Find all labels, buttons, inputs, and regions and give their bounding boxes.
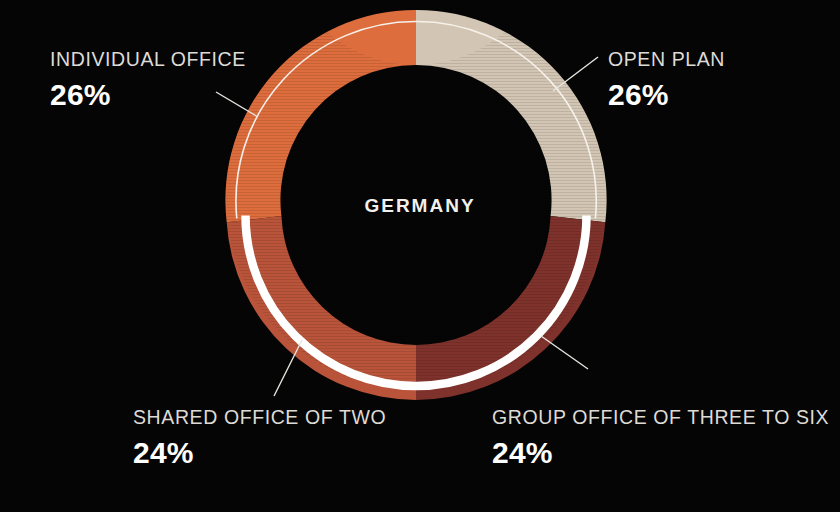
callout-shared-office-of-two: SHARED OFFICE OF TWO 24%: [133, 408, 386, 468]
callout-open-plan: OPEN PLAN 26%: [608, 50, 725, 110]
leader-line-group-three-six: [541, 336, 588, 369]
chart-center-title: GERMANY: [0, 195, 840, 217]
callout-label-individual-office: INDIVIDUAL OFFICE: [50, 50, 246, 70]
callout-value-individual-office: 26%: [50, 79, 246, 111]
callout-individual-office: INDIVIDUAL OFFICE 26%: [50, 50, 246, 110]
callout-label-shared-office-of-two: SHARED OFFICE OF TWO: [133, 408, 386, 428]
leader-line-open-plan: [553, 57, 598, 91]
callout-group-office-of-three-to-six: GROUP OFFICE OF THREE TO SIX 24%: [492, 408, 829, 468]
callout-value-open-plan: 26%: [608, 79, 725, 111]
callout-value-group-office-of-three-to-six: 24%: [492, 437, 829, 469]
callout-label-group-office-of-three-to-six: GROUP OFFICE OF THREE TO SIX: [492, 408, 829, 428]
donut-chart-infographic: GERMANY INDIVIDUAL OFFICE 26% OPEN PLAN …: [0, 0, 840, 512]
callout-label-open-plan: OPEN PLAN: [608, 50, 725, 70]
callout-value-shared-office-of-two: 24%: [133, 437, 386, 469]
